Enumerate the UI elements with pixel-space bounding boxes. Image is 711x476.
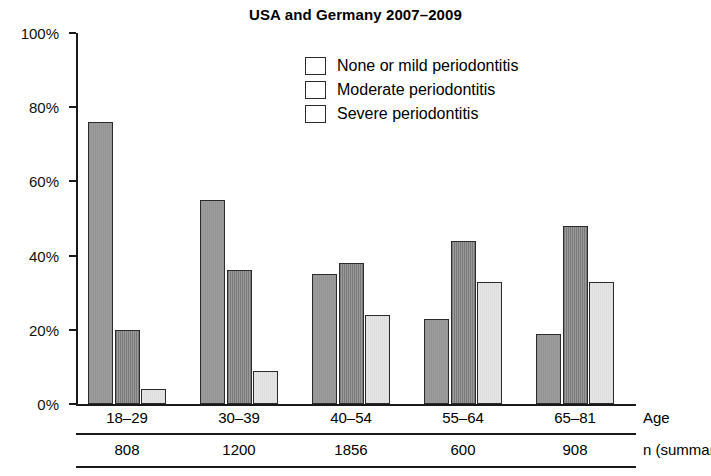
chart-legend: None or mild periodontitis Moderate peri… (305, 54, 518, 126)
axis-label-age: Age (643, 409, 670, 426)
bar (536, 334, 561, 404)
y-axis-tick (69, 180, 76, 182)
y-axis-tick (69, 255, 76, 257)
y-axis-tick-label: 60% (29, 173, 59, 190)
bar (589, 282, 614, 404)
bar (424, 319, 449, 404)
bar (339, 263, 364, 404)
legend-item-severe: Severe periodontitis (305, 102, 518, 126)
bar (253, 371, 278, 404)
y-axis-tick (69, 32, 76, 34)
x-axis-category-label: 40–54 (330, 409, 372, 426)
bar (227, 270, 252, 404)
y-axis-tick-label: 20% (29, 321, 59, 338)
bar (451, 241, 476, 404)
legend-label-severe: Severe periodontitis (337, 106, 478, 122)
x-axis-category-label: 55–64 (442, 409, 484, 426)
n-row-top-rule (76, 433, 636, 435)
legend-label-none-or-mild: None or mild periodontitis (337, 58, 518, 74)
bar (312, 274, 337, 404)
legend-label-moderate: Moderate periodontitis (337, 82, 495, 98)
legend-item-moderate: Moderate periodontitis (305, 78, 518, 102)
chart-title: USA and Germany 2007–2009 (0, 6, 711, 23)
y-axis-tick-label: 0% (37, 396, 59, 413)
chart-root: USA and Germany 2007–2009 100%80%60%40%2… (0, 0, 711, 476)
n-row-bottom-rule (76, 466, 636, 468)
bar (88, 122, 113, 404)
bar (200, 200, 225, 404)
bar (477, 282, 502, 404)
y-axis-tick (69, 329, 76, 331)
n-value: 808 (114, 441, 139, 458)
bar (141, 389, 166, 404)
bar (563, 226, 588, 404)
x-axis-line (76, 404, 636, 406)
n-value: 1200 (222, 441, 255, 458)
n-value: 908 (562, 441, 587, 458)
x-axis-category-label: 18–29 (106, 409, 148, 426)
n-value: 1856 (334, 441, 367, 458)
x-axis-category-label: 65–81 (554, 409, 596, 426)
y-axis-tick-label: 40% (29, 247, 59, 264)
legend-item-none-or-mild: None or mild periodontitis (305, 54, 518, 78)
y-axis-tick-label: 100% (21, 25, 59, 42)
n-value: 600 (450, 441, 475, 458)
bar (115, 330, 140, 404)
y-axis-line (76, 33, 78, 404)
legend-swatch-icon-severe (305, 105, 326, 123)
y-axis-tick (69, 106, 76, 108)
legend-swatch-icon-none-or-mild (305, 57, 326, 75)
bar (365, 315, 390, 404)
x-axis-category-label: 30–39 (218, 409, 260, 426)
legend-swatch-icon-moderate (305, 81, 326, 99)
y-axis-tick (69, 403, 76, 405)
y-axis-tick-label: 80% (29, 99, 59, 116)
axis-label-n-summarized: n (summarized) (643, 441, 711, 458)
